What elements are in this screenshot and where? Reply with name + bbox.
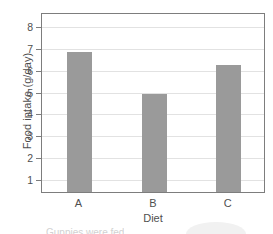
y-tick-mark	[36, 180, 42, 181]
y-tick-label: 4	[27, 108, 33, 120]
y-tick-label: 7	[27, 43, 33, 55]
x-tick-label-c: C	[224, 197, 232, 209]
bars	[42, 14, 264, 192]
figure-caption: Guppies were fed	[46, 227, 124, 234]
y-tick-mark	[36, 114, 42, 115]
bar-chart-figure: Food intake (g/day) 12345678 Diet Guppie…	[0, 0, 273, 234]
y-tick-label: 5	[27, 87, 33, 99]
y-tick-label: 6	[27, 65, 33, 77]
x-tick-label-b: B	[149, 197, 156, 209]
y-tick-label: 3	[27, 130, 33, 142]
y-tick-mark	[36, 158, 42, 159]
y-tick-mark	[36, 49, 42, 50]
y-tick-mark	[36, 93, 42, 94]
y-tick-label: 1	[27, 174, 33, 186]
x-axis-title: Diet	[41, 212, 265, 224]
bar-b	[142, 94, 167, 192]
y-tick-label: 2	[27, 152, 33, 164]
plot-area: 12345678	[41, 13, 265, 193]
y-tick-mark	[36, 71, 42, 72]
bar-a	[67, 52, 92, 192]
y-tick-label: 8	[27, 21, 33, 33]
bar-c	[216, 65, 241, 192]
x-tick-label-a: A	[75, 197, 82, 209]
y-tick-mark	[36, 136, 42, 137]
y-tick-mark	[36, 27, 42, 28]
